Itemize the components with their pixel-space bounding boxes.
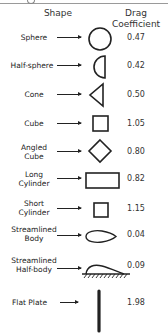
drag-value: 0.47 [124, 33, 148, 42]
arrow-icon [57, 208, 81, 209]
drag-header-line2: Coefficient [108, 19, 164, 29]
row-label-line2: Cylinder [0, 179, 69, 188]
square-icon [93, 202, 109, 218]
half-sphere-icon [93, 55, 107, 79]
diamond-icon [88, 139, 112, 163]
arrow-icon [57, 94, 81, 95]
arrow-icon [60, 302, 78, 303]
arrow-icon [57, 235, 81, 236]
row-label-line2: Cube [0, 152, 69, 161]
flat-plate-icon [96, 290, 102, 332]
arrow-icon [57, 37, 81, 38]
square-icon [92, 115, 109, 132]
row-label-line1: Streamlined [0, 225, 69, 234]
cone-icon [89, 83, 105, 107]
arrow-icon [57, 65, 81, 66]
top-divider [0, 3, 168, 4]
long-rectangle-icon [85, 172, 120, 190]
drag-value: 0.82 [124, 174, 148, 183]
drag-value: 1.05 [124, 119, 148, 128]
drag-value: 1.15 [124, 204, 148, 213]
drag-value: 0.80 [124, 147, 148, 156]
shape-column-header: Shape [28, 8, 88, 18]
circle-icon [88, 27, 112, 51]
arrow-icon [57, 268, 81, 269]
drag-value: 0.50 [124, 90, 148, 99]
drag-value: 0.42 [124, 61, 148, 70]
row-label-line2: Cylinder [0, 208, 69, 217]
drag-value: 0.09 [124, 261, 148, 270]
airfoil-icon [84, 229, 118, 244]
arrow-icon [57, 151, 81, 152]
row-label-line1: Short [0, 199, 69, 208]
arrow-icon [57, 123, 81, 124]
drag-header-line1: Drag [108, 8, 164, 18]
arrow-icon [57, 178, 81, 179]
drag-value: 1.98 [124, 298, 148, 307]
row-label-line1: Streamlined [0, 256, 69, 265]
drag-value: 0.04 [124, 230, 148, 239]
row-label-line2: Half-body [0, 265, 69, 274]
